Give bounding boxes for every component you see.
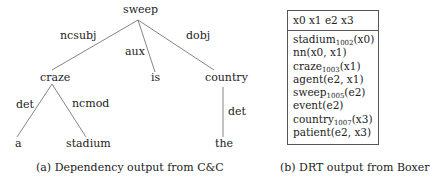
caption-b: (b) DRT output from Boxer (280, 161, 430, 174)
drs-condition: patient(e2, x3) (293, 126, 378, 139)
node-a: a (15, 137, 22, 150)
drs-condition: craze1003(x1) (293, 60, 378, 73)
drs-condition: stadium1002(x0) (293, 33, 378, 46)
drs-condition: agent(e2, x1) (293, 73, 378, 86)
drs-universe: x0 x1 e2 x3 (288, 11, 378, 31)
drs-box: x0 x1 e2 x3 stadium1002(x0) nn(x0, x1) c… (287, 10, 379, 145)
edge-ncsubj: ncsubj (60, 29, 96, 42)
edge-ncmod: ncmod (72, 97, 109, 110)
edge-det-country: det (228, 105, 246, 118)
node-is: is (151, 71, 160, 84)
drs-condition: sweep1005(e2) (293, 86, 378, 99)
node-the: the (215, 137, 233, 150)
edge-det-craze: det (16, 98, 34, 111)
node-sweep: sweep (123, 3, 158, 16)
drs-condition: event(e2) (293, 99, 378, 112)
node-country: country (205, 71, 248, 84)
caption-a: (a) Dependency output from C&C (36, 161, 224, 174)
drs-condition: nn(x0, x1) (293, 46, 378, 59)
drs-condition: country1007(x3) (293, 113, 378, 126)
node-stadium: stadium (66, 137, 111, 150)
edge-dobj: dobj (186, 29, 210, 42)
drs-conditions: stadium1002(x0) nn(x0, x1) craze1003(x1)… (288, 31, 378, 139)
node-craze: craze (40, 71, 70, 84)
edge-aux: aux (125, 45, 145, 58)
